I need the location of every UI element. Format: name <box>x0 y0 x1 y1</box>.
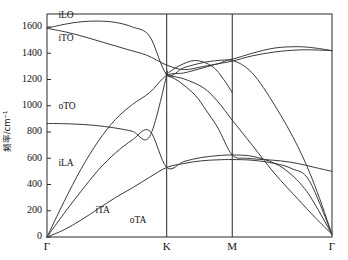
dispersion-curve-ila <box>47 60 332 237</box>
dispersion-curve-ita <box>47 130 332 237</box>
dispersion-curve-ila-upper-continuation <box>167 60 233 92</box>
dispersion-curve-ito <box>47 28 332 69</box>
y-tick-label: 1000 <box>22 99 42 110</box>
x-tick-label: M <box>227 240 237 252</box>
x-tick-labels: ΓKMΓ <box>44 240 335 252</box>
x-tick-label: K <box>163 240 171 252</box>
x-tick-label: Γ <box>329 240 335 252</box>
chart-canvas: 02004006008001000120014001600 ΓKMΓ iLOiT… <box>0 0 348 260</box>
phonon-dispersion-figure: 频率/cm⁻¹ 02004006008001000120014001600 ΓK… <box>0 0 348 260</box>
dispersion-curve-oto-lower-branch <box>167 76 332 172</box>
dispersion-curves <box>47 21 332 237</box>
y-tick-labels: 02004006008001000120014001600 <box>22 20 42 241</box>
dispersion-curve-oto <box>47 71 332 234</box>
y-tick-label: 1600 <box>22 20 42 31</box>
y-tick-label: 1200 <box>22 73 42 84</box>
branch-label-ito: iTO <box>58 33 73 43</box>
branch-label-ila: iLA <box>58 158 73 168</box>
branch-label-ota: oTA <box>130 215 147 225</box>
y-tick-label: 400 <box>27 178 42 189</box>
dispersion-curve-ota <box>47 160 332 237</box>
y-tick-marks <box>47 27 51 237</box>
high-symmetry-lines <box>167 14 233 237</box>
y-tick-label: 1400 <box>22 47 42 58</box>
dispersion-curve-ilo <box>47 21 332 76</box>
y-tick-label: 200 <box>27 204 42 215</box>
branch-label-ilo: iLO <box>58 10 73 20</box>
y-tick-label: 800 <box>27 125 42 136</box>
branch-label-ita: iTA <box>95 205 110 215</box>
branch-label-oto: oTO <box>58 101 75 111</box>
y-tick-label: 600 <box>27 152 42 163</box>
x-tick-label: Γ <box>44 240 50 252</box>
y-tick-label: 0 <box>37 230 42 241</box>
plot-frame <box>47 14 332 237</box>
